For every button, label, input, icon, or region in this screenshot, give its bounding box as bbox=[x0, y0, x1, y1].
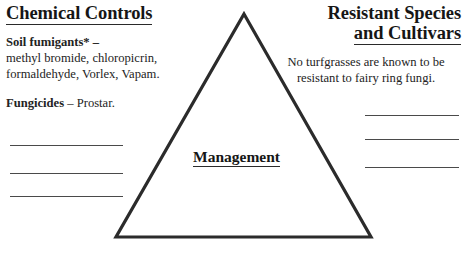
left-blank-line-2[interactable] bbox=[10, 173, 123, 174]
fungicides-block: Fungicides – Prostar. bbox=[6, 95, 191, 111]
resistant-species-column: Resistant Species and Cultivars No turfg… bbox=[271, 4, 461, 87]
soil-fumigants-lead: Soil fumigants* – bbox=[6, 35, 99, 49]
resistant-species-heading-line1: Resistant Species bbox=[271, 4, 461, 24]
fungicides-lead: Fungicides bbox=[6, 96, 64, 110]
resistant-species-heading-line2: and Cultivars bbox=[271, 24, 461, 45]
fungicides-detail: – Prostar. bbox=[64, 96, 115, 110]
chemical-controls-heading: Chemical Controls bbox=[6, 4, 191, 25]
resistant-species-heading: Resistant Species and Cultivars bbox=[271, 4, 461, 45]
soil-fumigants-block: Soil fumigants* – methyl bromide, chloro… bbox=[6, 34, 191, 82]
right-blank-line-3[interactable] bbox=[365, 167, 459, 168]
chemical-controls-heading-text: Chemical Controls bbox=[6, 4, 152, 25]
resistant-species-heading-line2-text: and Cultivars bbox=[354, 24, 461, 45]
left-blank-line-3[interactable] bbox=[10, 196, 123, 197]
right-blank-line-1[interactable] bbox=[365, 115, 459, 116]
right-blank-line-2[interactable] bbox=[365, 139, 459, 140]
resistant-species-body: No turfgrasses are known to be resistant… bbox=[271, 54, 461, 87]
left-blank-line-1[interactable] bbox=[10, 145, 123, 146]
slide-canvas: Chemical Controls Soil fumigants* – meth… bbox=[0, 0, 469, 260]
chemical-controls-column: Chemical Controls Soil fumigants* – meth… bbox=[6, 4, 191, 111]
soil-fumigants-detail: methyl bromide, chloropicrin, formaldehy… bbox=[6, 51, 160, 81]
